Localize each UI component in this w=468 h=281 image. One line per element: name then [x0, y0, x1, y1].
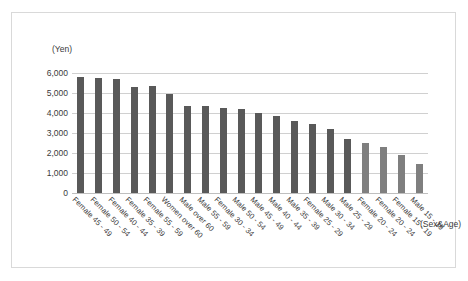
bar[interactable]: [309, 124, 316, 193]
bar[interactable]: [362, 143, 369, 193]
bar[interactable]: [416, 164, 423, 193]
bar[interactable]: [238, 109, 245, 193]
y-axis-tick-label: 4,000: [22, 108, 68, 118]
y-axis-unit-label: (Yen): [52, 44, 72, 54]
y-axis-tick-label: 2,000: [22, 148, 68, 158]
y-axis-tick-label: 3,000: [22, 128, 68, 138]
y-axis-tick-label: 5,000: [22, 88, 68, 98]
y-axis-tick-label: 6,000: [22, 68, 68, 78]
bar[interactable]: [255, 113, 262, 193]
bar[interactable]: [344, 139, 351, 193]
bar[interactable]: [273, 116, 280, 193]
bar[interactable]: [77, 77, 84, 193]
bar[interactable]: [131, 87, 138, 193]
bar[interactable]: [398, 155, 405, 193]
bar[interactable]: [95, 78, 102, 193]
y-axis-tick-labels: 6,0005,0004,0003,0002,0001,0000: [20, 73, 68, 193]
bar[interactable]: [149, 86, 156, 193]
axis-baseline: [72, 193, 428, 194]
bar[interactable]: [291, 121, 298, 193]
bar[interactable]: [327, 129, 334, 193]
plot-area: [72, 73, 428, 193]
y-axis-tick-label: 0: [22, 188, 68, 198]
chart-frame: (Yen) (Sex&Age) 6,0005,0004,0003,0002,00…: [11, 12, 456, 268]
bar[interactable]: [184, 106, 191, 193]
x-axis-category-labels: Female 45 - 49Female 50 - 54Female 40 - …: [72, 195, 428, 281]
y-axis-tick-label: 1,000: [22, 168, 68, 178]
bar-series: [72, 73, 428, 193]
bar[interactable]: [166, 94, 173, 193]
bar[interactable]: [220, 108, 227, 193]
bar[interactable]: [113, 79, 120, 193]
bar[interactable]: [202, 106, 209, 193]
bar[interactable]: [380, 147, 387, 193]
